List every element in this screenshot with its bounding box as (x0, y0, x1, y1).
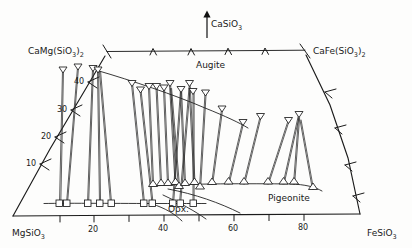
opx-marker (149, 200, 156, 207)
augite-marker (285, 118, 293, 124)
right-axis (306, 55, 360, 214)
label-augite: Augite (196, 60, 226, 70)
label-camg-sio3-2: CaMg(SiO3)2 (28, 46, 84, 59)
augite-marker (239, 120, 247, 126)
augite-marker (218, 106, 226, 112)
left-tick-label-30: 30 (57, 105, 67, 114)
augite-marker (59, 67, 67, 73)
opx-marker (85, 200, 92, 207)
augite-marker (160, 85, 168, 91)
augite-marker (295, 112, 303, 118)
pigeonite-marker (279, 178, 288, 185)
label-pigeonite: Pigeonite (268, 193, 310, 203)
bottom-axis (13, 214, 360, 216)
pigeonite-marker (208, 178, 217, 185)
pyroxene-quadrilateral-figure: CaSiO3 CaMg(SiO3)2 CaFe(SiO3)2 MgSiO3 Fe… (0, 0, 412, 248)
pigeonite-marker (240, 178, 249, 185)
opx-marker (141, 200, 148, 207)
label-casio3: CaSiO3 (211, 19, 242, 32)
top-join-line (103, 44, 310, 58)
augite-marker (128, 81, 136, 87)
bottom-tick-label-80: 80 (298, 223, 308, 232)
bottom-tick-label-60: 60 (228, 224, 238, 233)
augite-marker (257, 114, 265, 120)
augite-marker (74, 64, 82, 70)
pigeonite-marker (190, 178, 199, 185)
left-tick-label-40: 40 (74, 77, 84, 86)
label-opx: Opx. (168, 204, 189, 214)
left-tick-label-10: 10 (26, 159, 36, 168)
opx-marker (108, 200, 115, 207)
opx-marker (56, 200, 63, 207)
pigeonite-marker (181, 179, 190, 186)
augite-marker (137, 87, 145, 93)
ternary-diagram-svg: CaSiO3 CaMg(SiO3)2 CaFe(SiO3)2 MgSiO3 Fe… (0, 0, 412, 248)
opx-marker (64, 200, 71, 207)
opx-marker (190, 200, 197, 207)
augite-solvus-limb (99, 71, 248, 128)
augite-marker (177, 87, 185, 93)
label-mgsio3: MgSiO3 (12, 228, 45, 241)
bottom-tick-label-40: 40 (158, 224, 168, 233)
augite-marker (186, 81, 194, 87)
augite-marker (145, 84, 153, 90)
left-tick-label-20: 20 (41, 132, 51, 141)
pigeonite-marker (290, 178, 299, 185)
label-fesio3: FeSiO3 (367, 228, 397, 241)
opx-marker (97, 200, 104, 207)
label-cafe-sio3-2: CaFe(SiO3)2 (313, 46, 366, 59)
bottom-tick-label-20: 20 (88, 225, 98, 234)
augite-marker (202, 90, 210, 96)
pigeonite-marker (264, 178, 273, 185)
pigeonite-marker (224, 178, 233, 185)
